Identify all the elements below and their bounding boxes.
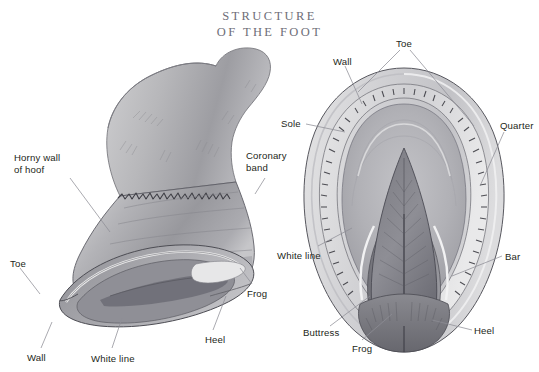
diagram-page: Structure of the Foot Horny wallof hoofT… [0,0,539,372]
leader-wall-left [41,322,52,348]
label-toe-right-line-1: Toe [396,38,412,50]
leader-toe-left [20,268,40,294]
hoof-anatomy-illustration [0,0,539,372]
label-toe-right: Toe [396,38,412,50]
label-white-line-left-line-1: White line [91,353,135,365]
label-horny-wall-of-hoof-line-2: of hoof [14,164,60,176]
label-frog-right: Frog [352,343,372,355]
label-sole-right: Sole [281,118,301,130]
sole-hoof-figure [304,68,504,352]
label-frog-left-line-1: Frog [247,288,267,300]
label-bar-right-line-1: Bar [505,251,520,263]
label-buttress-right: Buttress [303,327,339,339]
label-wall-right: Wall [333,56,352,68]
label-wall-left-line-1: Wall [27,352,46,364]
label-horny-wall-of-hoof: Horny wallof hoof [14,152,60,175]
label-frog-right-line-1: Frog [352,343,372,355]
leader-horny-wall [70,178,110,232]
label-white-line-left: White line [91,353,135,365]
label-bar-right: Bar [505,251,520,263]
label-toe-left-line-1: Toe [10,258,26,270]
label-white-line-right-line-1: White line [277,250,321,262]
label-buttress-right-line-1: Buttress [303,327,339,339]
label-horny-wall-of-hoof-line-1: Horny wall [14,152,60,164]
label-heel-right-line-1: Heel [474,325,494,337]
page-title-line-2: of the Foot [0,24,539,40]
label-heel-left-line-1: Heel [205,334,225,346]
page-title-line-1: Structure [0,8,539,24]
label-coronary-band: Coronaryband [246,150,287,173]
label-quarter-right-line-1: Quarter [500,120,534,132]
label-heel-left: Heel [205,334,225,346]
leader-coronary-band [255,178,265,194]
label-wall-left: Wall [27,352,46,364]
label-wall-right-line-1: Wall [333,56,352,68]
label-coronary-band-line-2: band [246,162,287,174]
label-white-line-right: White line [277,250,321,262]
label-toe-left: Toe [10,258,26,270]
label-sole-right-line-1: Sole [281,118,301,130]
lateral-hoof-figure [59,48,270,327]
label-frog-left: Frog [247,288,267,300]
label-quarter-right: Quarter [500,120,534,132]
label-heel-right: Heel [474,325,494,337]
label-coronary-band-line-1: Coronary [246,150,287,162]
